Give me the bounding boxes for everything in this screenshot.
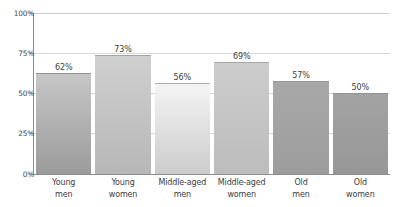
y-axis-label-50: 50% <box>4 89 34 98</box>
x-axis-category-label: Middle-agedmen <box>153 177 212 200</box>
bar-group: 56% <box>153 13 212 174</box>
x-axis-labels: YoungmenYoungwomenMiddle-agedmenMiddle-a… <box>34 177 390 207</box>
bar-value-label: 62% <box>34 63 93 72</box>
bar-group: 57% <box>271 13 330 174</box>
x-axis-label-line: women <box>93 189 152 201</box>
x-axis-label-line: Young <box>93 177 152 189</box>
x-axis-category-label: Oldmen <box>271 177 330 200</box>
x-axis-label-line: men <box>34 189 93 201</box>
x-axis-label-line: Old <box>271 177 330 189</box>
bar[interactable] <box>155 83 210 174</box>
x-axis-category-label: Youngwomen <box>93 177 152 200</box>
bar-value-label: 57% <box>271 71 330 80</box>
x-axis-category-label: Youngmen <box>34 177 93 200</box>
bar-group: 69% <box>212 13 271 174</box>
bar[interactable] <box>95 55 150 174</box>
x-axis-label-line: Middle-aged <box>153 177 212 189</box>
x-axis-label-line: women <box>331 189 390 201</box>
bar-group: 73% <box>93 13 152 174</box>
y-axis-label-75: 75% <box>4 49 34 58</box>
bar-value-label: 69% <box>212 52 271 61</box>
bar-chart: 100% 75% 50% 25% 0% 62%73%56%69%57%50% Y… <box>0 0 396 207</box>
bar-value-label: 56% <box>153 73 212 82</box>
x-axis-label-line: women <box>212 189 271 201</box>
x-axis-label-line: Middle-aged <box>212 177 271 189</box>
x-axis-category-label: Oldwomen <box>331 177 390 200</box>
bar-group: 62% <box>34 13 93 174</box>
x-axis-label-line: Old <box>331 177 390 189</box>
bar-group: 50% <box>331 13 390 174</box>
x-axis-label-line: Young <box>34 177 93 189</box>
x-axis-label-line: men <box>271 189 330 201</box>
x-axis-line <box>33 174 390 175</box>
y-axis-label-25: 25% <box>4 129 34 138</box>
bar[interactable] <box>333 93 388 175</box>
plot-area: 62%73%56%69%57%50% <box>34 13 390 174</box>
bar[interactable] <box>273 81 328 174</box>
bar-value-label: 73% <box>93 45 152 54</box>
bar[interactable] <box>36 73 91 174</box>
y-axis-label-0: 0% <box>4 170 34 179</box>
x-axis-label-line: men <box>153 189 212 201</box>
y-axis-label-100: 100% <box>4 9 34 18</box>
bar[interactable] <box>214 62 269 174</box>
bar-value-label: 50% <box>331 83 390 92</box>
x-axis-category-label: Middle-agedwomen <box>212 177 271 200</box>
